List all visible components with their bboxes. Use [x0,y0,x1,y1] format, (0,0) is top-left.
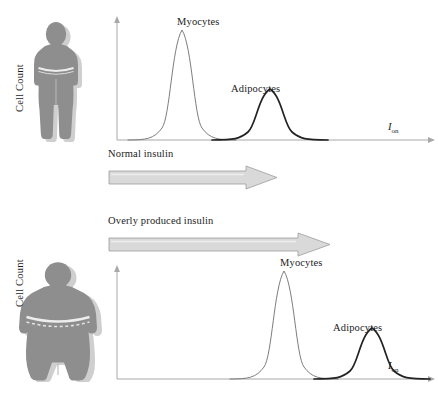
x-axis-label: Ion [388,121,399,135]
curve-label-adipocytes: Adipocytes [333,322,382,333]
arrow-shape [109,166,277,189]
y-axis [114,265,120,379]
chart-overproduced-insulin: Myocytes Adipocytes Ion [88,257,438,387]
y-axis-label-normal: Cell Count [14,64,25,112]
x-axis [117,376,435,382]
curve-myocytes [128,30,236,140]
panel-overproduced-insulin: Myocytes Adipocytes Ion Cell Count Overl… [0,197,438,395]
y-axis-label-obese: Cell Count [14,259,25,307]
normal-weight-person-silhouette [18,18,98,146]
curve-adipocytes [212,89,328,140]
normal-insulin-arrow-group: Normal insulin [108,148,298,194]
x-axis [117,137,435,143]
panel-normal-insulin: Myocytes Adipocytes Ion Cell Count Norma… [0,0,438,198]
curve-label-adipocytes: Adipocytes [231,83,280,94]
y-axis [114,16,120,140]
curve-myocytes [230,271,338,379]
x-axis-label: Ion [388,360,399,374]
normal-insulin-label: Normal insulin [108,148,173,159]
chart-normal-insulin: Myocytes Adipocytes Ion [88,8,438,148]
curve-label-myocytes: Myocytes [177,16,220,27]
overproduced-insulin-arrow-group: Overly produced insulin [108,215,353,261]
curve-adipocytes [314,328,430,379]
overproduced-insulin-label: Overly produced insulin [108,215,214,226]
arrow-shape [109,233,330,256]
